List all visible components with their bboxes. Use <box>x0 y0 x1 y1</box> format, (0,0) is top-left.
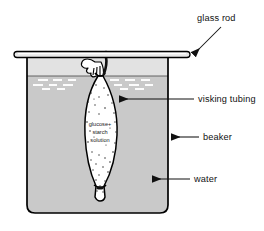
label-visking-tubing: visking tubing <box>198 94 256 104</box>
solution-line-2: starch <box>92 129 107 135</box>
label-water: water <box>193 174 217 184</box>
glass-rod-leader <box>194 27 221 54</box>
experiment-diagram: glass rod visking tubing beaker water gl… <box>0 0 264 231</box>
glass-rod-body <box>14 52 190 58</box>
diagram-root: glass rod visking tubing beaker water gl… <box>0 0 264 231</box>
label-beaker: beaker <box>203 132 232 142</box>
label-glass-rod: glass rod <box>197 13 236 23</box>
glass-rod <box>14 52 190 58</box>
tubing-bottom-knot <box>96 186 103 189</box>
solution-line-3: solution <box>90 137 109 143</box>
solution-line-1: glucose+ <box>89 121 112 127</box>
